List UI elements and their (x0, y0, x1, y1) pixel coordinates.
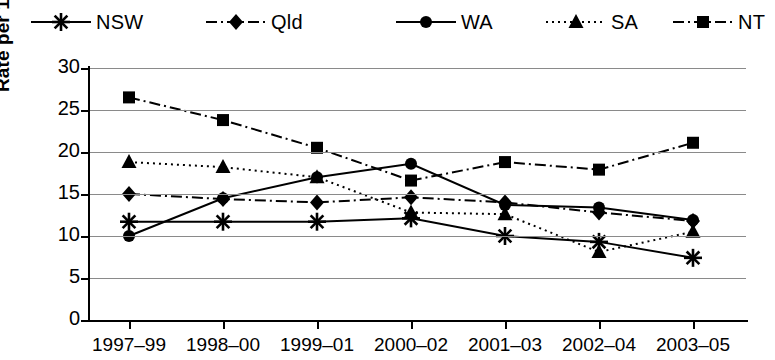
y-axis-tick-label: 0 (34, 308, 80, 328)
legend-swatch-sa (545, 7, 607, 37)
data-point-nt-0 (123, 91, 135, 103)
y-axis-tick (81, 194, 88, 196)
data-point-qld-2 (310, 194, 324, 210)
legend-label-nsw: NSW (96, 11, 143, 34)
x-axis-tick-label: 2003–05 (656, 334, 730, 356)
gridline (88, 236, 746, 237)
legend-label-qld: Qld (271, 11, 303, 34)
x-axis-tick (411, 322, 413, 329)
legend-label-sa: SA (611, 11, 638, 34)
data-point-qld-3 (404, 189, 418, 205)
x-axis-tick (223, 322, 225, 329)
gridline (88, 194, 746, 195)
data-point-nt-1 (217, 114, 229, 126)
y-axis-title-container: Rate per 1000 live births (0, 0, 30, 360)
legend-swatch-nt (672, 7, 734, 37)
y-axis-tick (81, 320, 88, 322)
gridline (88, 110, 746, 111)
data-point-wa-3 (405, 158, 417, 170)
legend-item-qld[interactable]: Qld (205, 6, 303, 38)
legend-label-nt: NT (738, 11, 765, 34)
legend-swatch-qld (205, 7, 267, 37)
plot-area (88, 68, 746, 320)
x-axis-tick (599, 322, 601, 329)
legend-marker-wa (420, 16, 432, 28)
data-point-nt-6 (687, 137, 699, 149)
gridline (88, 278, 746, 279)
data-point-nt-4 (499, 156, 511, 168)
data-point-nt-3 (405, 175, 417, 187)
x-axis-tick (129, 322, 131, 329)
data-point-nsw-6 (684, 249, 702, 267)
y-axis-tick (81, 110, 88, 112)
data-point-wa-5 (593, 201, 605, 213)
y-axis-tick-label: 25 (34, 98, 80, 118)
y-axis-tick (81, 278, 88, 280)
legend-marker-qld (229, 14, 243, 30)
y-axis-tick-label: 5 (34, 266, 80, 286)
data-point-sa-0 (122, 154, 137, 168)
y-axis-tick (81, 152, 88, 154)
chart-legend: NSWQldWASANT (0, 0, 775, 46)
x-axis-tick-label: 1999–01 (280, 334, 354, 356)
legend-marker-nt (697, 16, 709, 28)
data-point-sa-4 (498, 206, 513, 220)
y-axis-tick (81, 68, 88, 70)
y-axis-tick-label: 10 (34, 224, 80, 244)
legend-item-wa[interactable]: WA (395, 6, 493, 38)
data-point-nt-5 (593, 164, 605, 176)
data-point-sa-1 (216, 159, 231, 173)
series-nt (123, 91, 699, 186)
data-point-nsw-0 (120, 213, 138, 231)
y-axis-tick-label: 20 (34, 140, 80, 160)
data-point-nsw-2 (308, 213, 326, 231)
y-axis-title: Rate per 1000 live births (0, 0, 14, 92)
y-axis-tick-labels: 051015202530 (28, 0, 80, 360)
y-axis-tick (81, 236, 88, 238)
y-axis-tick-label: 30 (34, 56, 80, 76)
legend-item-nt[interactable]: NT (672, 6, 765, 38)
x-axis-tick-label: 2001–03 (468, 334, 542, 356)
y-axis-tick-label: 15 (34, 182, 80, 202)
x-axis-tick (693, 322, 695, 329)
x-axis-tick-label: 1997–99 (92, 334, 166, 356)
gridline (88, 68, 746, 69)
x-axis-tick-label: 1998–00 (186, 334, 260, 356)
line-chart: NSWQldWASANT Rate per 1000 live births 0… (0, 0, 775, 360)
gridline (88, 152, 746, 153)
x-axis-tick (505, 322, 507, 329)
legend-label-wa: WA (461, 11, 493, 34)
y-axis-line (88, 66, 90, 322)
x-axis-tick-labels: 1997–991998–001999–012000–022001–032002–… (88, 322, 748, 360)
x-axis-tick-label: 2000–02 (374, 334, 448, 356)
data-point-nsw-1 (214, 213, 232, 231)
x-axis-tick-label: 2002–04 (562, 334, 636, 356)
x-axis-tick (317, 322, 319, 329)
legend-item-sa[interactable]: SA (545, 6, 638, 38)
legend-swatch-wa (395, 7, 457, 37)
